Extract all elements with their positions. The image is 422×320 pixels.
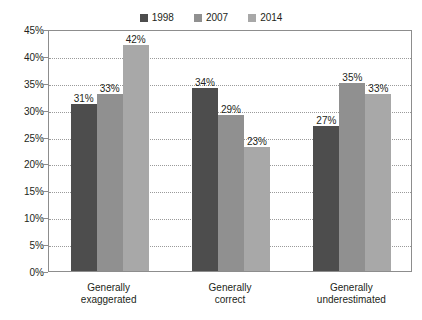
- y-axis-tick-label: 40%: [4, 51, 44, 62]
- bar-chart: 1998 2007 2014 45%40%35%30%25%20%15%10%5…: [0, 0, 422, 320]
- bar-value-label: 34%: [195, 78, 215, 88]
- x-axis-category-label: Generally underestimated: [317, 282, 386, 306]
- y-axis-tick-label: 25%: [4, 132, 44, 143]
- bar-2014-1[interactable]: [244, 147, 270, 271]
- legend-entry-1998[interactable]: 1998: [140, 13, 174, 23]
- legend-label-1998: 1998: [152, 13, 174, 23]
- bar-2007-0[interactable]: [97, 94, 123, 271]
- y-axis-tick-mark: [42, 272, 48, 273]
- legend-entry-2014[interactable]: 2014: [248, 13, 282, 23]
- y-axis-tick-label: 30%: [4, 105, 44, 116]
- bar-value-label: 35%: [342, 73, 362, 83]
- legend-swatch-icon-1998: [140, 14, 148, 22]
- legend-label-2014: 2014: [260, 13, 282, 23]
- bar-value-label: 31%: [74, 94, 94, 104]
- y-axis-tick-label: 0%: [4, 267, 44, 278]
- y-axis-tick-label: 45%: [4, 25, 44, 36]
- legend-label-2007: 2007: [206, 13, 228, 23]
- legend-swatch-icon-2014: [248, 14, 256, 22]
- bar-value-label: 33%: [368, 84, 388, 94]
- gridline: [49, 58, 411, 59]
- bar-value-label: 29%: [221, 105, 241, 115]
- bar-1998-1[interactable]: [192, 88, 218, 271]
- bar-1998-2[interactable]: [313, 126, 339, 271]
- x-axis-category-label: Generally correct: [209, 282, 252, 306]
- legend-swatch-icon-2007: [194, 14, 202, 22]
- bar-value-label: 33%: [100, 84, 120, 94]
- bar-value-label: 23%: [247, 137, 267, 147]
- plot-inner: 31%33%42%34%29%23%27%35%33%: [49, 31, 411, 271]
- bar-value-label: 27%: [316, 116, 336, 126]
- bar-2014-0[interactable]: [123, 45, 149, 271]
- bar-1998-0[interactable]: [71, 104, 97, 271]
- y-axis-tick-label: 10%: [4, 213, 44, 224]
- plot-area: 31%33%42%34%29%23%27%35%33%: [48, 30, 412, 272]
- y-axis-tick-label: 5%: [4, 240, 44, 251]
- y-axis-tick-label: 35%: [4, 78, 44, 89]
- legend-entry-2007[interactable]: 2007: [194, 13, 228, 23]
- bar-2007-2[interactable]: [339, 83, 365, 271]
- chart-legend: 1998 2007 2014: [0, 13, 422, 23]
- bar-2014-2[interactable]: [365, 94, 391, 271]
- y-axis-tick-label: 15%: [4, 186, 44, 197]
- bar-2007-1[interactable]: [218, 115, 244, 271]
- x-axis-category-label: Generally exaggerated: [81, 282, 137, 306]
- bar-value-label: 42%: [126, 35, 146, 45]
- y-axis-tick-label: 20%: [4, 159, 44, 170]
